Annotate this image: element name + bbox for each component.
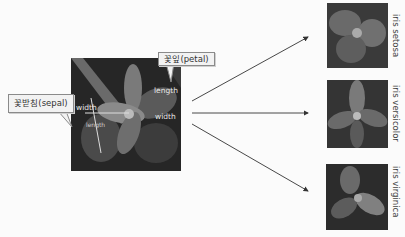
species-label-setosa: iris setosa xyxy=(391,14,401,57)
sepal-callout: 꽃받침(sepal) xyxy=(8,94,74,113)
arrow-to-setosa xyxy=(192,37,308,101)
iris-virginica-photo xyxy=(326,164,388,230)
petal-callout: 꽃잎(petal) xyxy=(158,52,215,66)
species-label-virginica: iris virginica xyxy=(391,166,401,217)
iris-setosa-photo xyxy=(327,3,388,68)
species-label-versicolor: iris versicolor xyxy=(391,85,401,142)
arrow-to-virginica xyxy=(192,124,308,191)
iris-versicolor-photo xyxy=(327,80,388,148)
sepal-callout-tail xyxy=(58,111,72,127)
